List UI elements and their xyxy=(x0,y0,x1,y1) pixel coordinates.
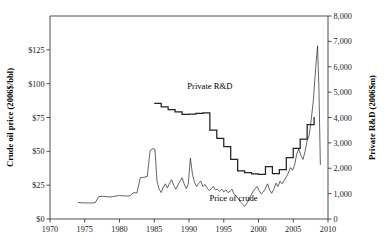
x-tick-label: 2005 xyxy=(285,225,301,234)
plot-frame xyxy=(50,16,328,219)
x-tick-label: 1990 xyxy=(181,225,197,234)
right-tick-label: 0 xyxy=(334,215,338,224)
x-axis-ticks: 197019751980198519901995200020052010 xyxy=(42,219,336,234)
x-tick-label: 1985 xyxy=(146,225,162,234)
x-tick-label: 1975 xyxy=(77,225,93,234)
x-tick-label: 1970 xyxy=(42,225,58,234)
right-tick-label: 6,000 xyxy=(334,63,352,72)
left-tick-label: $0 xyxy=(36,215,44,224)
crude-oil-vs-private-rnd-chart: $0$25$50$75$100$125 01,0002,0003,0004,00… xyxy=(0,0,386,246)
right-tick-label: 8,000 xyxy=(334,12,352,21)
left-tick-label: $50 xyxy=(32,147,44,156)
right-tick-label: 5,000 xyxy=(334,88,352,97)
x-tick-label: 2000 xyxy=(250,225,266,234)
right-axis-ticks: 01,0002,0003,0004,0005,0006,0007,0008,00… xyxy=(328,12,352,224)
x-tick-label: 2010 xyxy=(320,225,336,234)
left-axis-ticks: $0$25$50$75$100$125 xyxy=(28,46,50,224)
left-tick-label: $25 xyxy=(32,181,44,190)
series-label-private-r-d: Private R&D xyxy=(187,81,232,91)
right-tick-label: 2,000 xyxy=(334,164,352,173)
left-tick-label: $100 xyxy=(28,80,44,89)
left-axis-title: Crude oil price (2006$/bbl) xyxy=(5,68,15,167)
right-tick-label: 1,000 xyxy=(334,190,352,199)
right-tick-label: 7,000 xyxy=(334,37,352,46)
plot-background xyxy=(50,16,328,219)
right-axis-title: Private R&D (2006$m) xyxy=(367,75,377,160)
x-tick-label: 1995 xyxy=(216,225,232,234)
series-label-price-of-crude: Price of crude xyxy=(209,193,257,203)
left-tick-label: $75 xyxy=(32,114,44,123)
figure-container: $0$25$50$75$100$125 01,0002,0003,0004,00… xyxy=(0,0,386,246)
x-tick-label: 1980 xyxy=(111,225,127,234)
right-tick-label: 4,000 xyxy=(334,114,352,123)
right-tick-label: 3,000 xyxy=(334,139,352,148)
left-tick-label: $125 xyxy=(28,46,44,55)
